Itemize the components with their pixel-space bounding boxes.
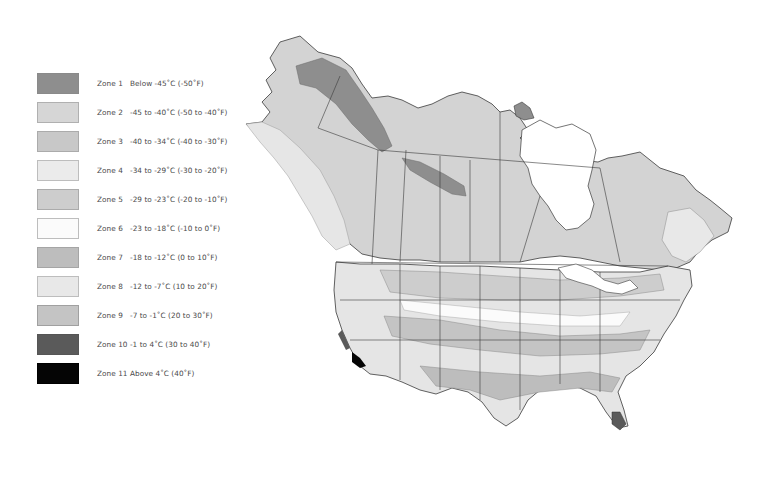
swatch-zone-9 [37, 305, 79, 326]
swatch-zone-3 [37, 131, 79, 152]
legend-label-zone-6: Zone 6 -23 to -18˚C (-10 to 0˚F) [97, 224, 220, 233]
swatch-zone-2 [37, 102, 79, 123]
swatch-zone-11 [37, 363, 79, 384]
legend-label-zone-8: Zone 8 -12 to -7˚C (10 to 20˚F) [97, 282, 217, 291]
swatch-zone-4 [37, 160, 79, 181]
swatch-zone-6 [37, 218, 79, 239]
legend-item-zone-7: Zone 7 -18 to -12˚C (0 to 10˚F) [37, 246, 217, 268]
legend-label-zone-10: Zone 10 -1 to 4˚C (30 to 40˚F) [97, 340, 210, 349]
legend-label-zone-2: Zone 2 -45 to -40˚C (-50 to -40˚F) [97, 108, 228, 117]
swatch-zone-5 [37, 189, 79, 210]
legend-label-zone-4: Zone 4 -34 to -29˚C (-30 to -20˚F) [97, 166, 228, 175]
swatch-zone-7 [37, 247, 79, 268]
legend-label-zone-1: Zone 1 Below -45˚C (-50˚F) [97, 79, 204, 88]
legend-item-zone-9: Zone 9 -7 to -1˚C (20 to 30˚F) [37, 304, 213, 326]
swatch-zone-1 [37, 73, 79, 94]
swatch-zone-10 [37, 334, 79, 355]
legend-item-zone-2: Zone 2 -45 to -40˚C (-50 to -40˚F) [37, 101, 228, 123]
legend-item-zone-6: Zone 6 -23 to -18˚C (-10 to 0˚F) [37, 217, 220, 239]
legend-label-zone-3: Zone 3 -40 to -34˚C (-40 to -30˚F) [97, 137, 228, 146]
legend-item-zone-10: Zone 10 -1 to 4˚C (30 to 40˚F) [37, 333, 210, 355]
legend-label-zone-11: Zone 11 Above 4˚C (40˚F) [97, 369, 194, 378]
legend-item-zone-4: Zone 4 -34 to -29˚C (-30 to -20˚F) [37, 159, 228, 181]
legend-item-zone-1: Zone 1 Below -45˚C (-50˚F) [37, 72, 204, 94]
legend-item-zone-5: Zone 5 -29 to -23˚C (-20 to -10˚F) [37, 188, 228, 210]
legend-item-zone-11: Zone 11 Above 4˚C (40˚F) [37, 362, 194, 384]
legend-label-zone-7: Zone 7 -18 to -12˚C (0 to 10˚F) [97, 253, 217, 262]
legend-label-zone-5: Zone 5 -29 to -23˚C (-20 to -10˚F) [97, 195, 228, 204]
hardiness-zone-map [222, 28, 742, 458]
swatch-zone-8 [37, 276, 79, 297]
legend-item-zone-8: Zone 8 -12 to -7˚C (10 to 20˚F) [37, 275, 217, 297]
legend-item-zone-3: Zone 3 -40 to -34˚C (-40 to -30˚F) [37, 130, 228, 152]
north-america-map [222, 28, 742, 458]
legend-label-zone-9: Zone 9 -7 to -1˚C (20 to 30˚F) [97, 311, 213, 320]
